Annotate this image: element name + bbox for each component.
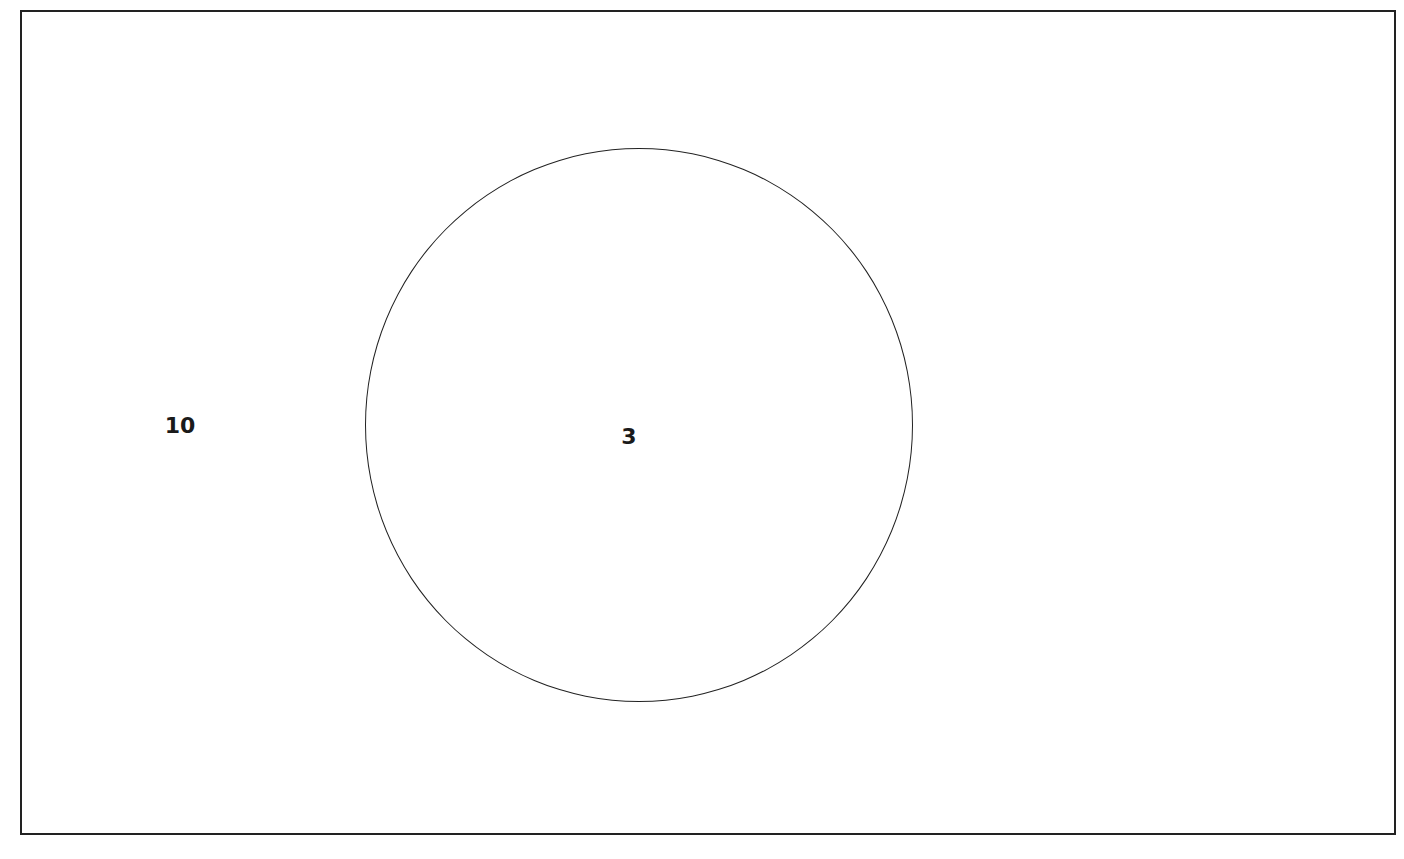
set-circle (365, 148, 913, 702)
set-count-label: 3 (621, 424, 636, 449)
outside-count-label: 10 (165, 413, 196, 438)
